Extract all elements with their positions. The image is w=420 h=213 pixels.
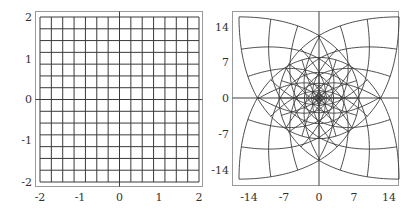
right-y-tick-labels: 14 7 0 -7 -14 <box>211 21 229 177</box>
left-y-tick-labels: 2 1 0 -1 -2 <box>21 11 32 189</box>
figure: -2 -1 0 1 2 2 1 0 -1 -2 -14 -7 0 7 14 14… <box>0 0 420 213</box>
x-tick-label: 0 <box>316 191 323 204</box>
left-grid-lines <box>36 12 203 187</box>
y-tick-label: 1 <box>25 53 32 66</box>
y-tick-label: -1 <box>21 134 32 147</box>
y-tick-label: 14 <box>215 21 229 34</box>
y-tick-label: -14 <box>211 164 229 177</box>
left-plot-square-grid: -2 -1 0 1 2 2 1 0 -1 -2 <box>21 11 202 204</box>
left-x-tick-labels: -2 -1 0 1 2 <box>35 191 203 204</box>
x-tick-label: 0 <box>116 191 123 204</box>
y-tick-label: 7 <box>222 56 229 69</box>
y-tick-label: -2 <box>21 176 32 189</box>
x-tick-label: -7 <box>279 191 290 204</box>
right-x-tick-labels: -14 -7 0 7 14 <box>240 191 396 204</box>
y-tick-label: 0 <box>222 92 229 105</box>
y-tick-label: -7 <box>218 128 229 141</box>
right-plot-mapped-grid: -14 -7 0 7 14 14 7 0 -7 -14 <box>211 12 399 205</box>
x-tick-label: 14 <box>382 191 396 204</box>
x-tick-label: 7 <box>351 191 358 204</box>
y-tick-label: 0 <box>25 93 32 106</box>
right-mapped-curves <box>233 12 400 186</box>
x-tick-label: -2 <box>35 191 46 204</box>
y-tick-label: 2 <box>25 11 32 24</box>
x-tick-label: 1 <box>156 191 163 204</box>
x-tick-label: 2 <box>196 191 203 204</box>
x-tick-label: -1 <box>75 191 86 204</box>
x-tick-label: -14 <box>240 191 258 204</box>
